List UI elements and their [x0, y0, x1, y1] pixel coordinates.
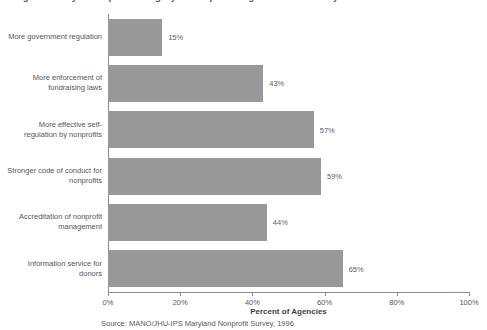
bar-row: 44% [108, 204, 469, 241]
category-label-text: Accreditation of nonprofit management [6, 212, 102, 232]
category-label-text: Stronger code of conduct for nonprofits [6, 166, 102, 186]
bar-more-enforcement-of-fundraising-laws [108, 65, 263, 102]
x-tick-label: 0% [103, 298, 114, 307]
bar-row: 15% [108, 19, 469, 56]
bar-value-label: 15% [168, 33, 183, 42]
category-label-5: Information service for donors [6, 246, 102, 292]
category-label-4: Accreditation of nonprofit management [6, 199, 102, 245]
bar-value-label: 44% [273, 218, 288, 227]
category-label-2: More effective self-regulation by nonpro… [6, 107, 102, 153]
bar-row: 43% [108, 65, 469, 102]
bar-value-label: 59% [327, 172, 342, 181]
x-axis-line [108, 292, 469, 293]
bar-more-effective-self-regulation-by-nonprofits [108, 111, 314, 148]
x-tick-label: 80% [389, 298, 404, 307]
category-label-text: More government regulation [8, 32, 102, 42]
bar-accreditation-of-nonprofit-management [108, 204, 267, 241]
x-axis-title: Percent of Agencies [108, 307, 469, 316]
category-label-text: More effective self-regulation by nonpro… [6, 120, 102, 140]
bar-chart-figure: Figure 4: Ways to Improve Integrity of N… [0, 0, 487, 330]
x-tick-mark [397, 292, 398, 296]
category-label-text: Information service for donors [6, 259, 102, 279]
bar-row: 65% [108, 250, 469, 287]
category-label-0: More government regulation [6, 14, 102, 60]
x-tick-label: 60% [317, 298, 332, 307]
bar-value-label: 57% [320, 125, 335, 134]
bar-row: 57% [108, 111, 469, 148]
source-note: Source: MANO/JHU-IPS Maryland Nonprofit … [101, 319, 294, 328]
x-tick-mark [469, 292, 470, 296]
x-tick-label: 40% [245, 298, 260, 307]
category-label-1: More enforcement of fundraising laws [6, 60, 102, 106]
x-tick-mark [252, 292, 253, 296]
bar-value-label: 65% [349, 264, 364, 273]
category-label-3: Stronger code of conduct for nonprofits [6, 153, 102, 199]
bar-row: 59% [108, 158, 469, 195]
bar-more-government-regulation [108, 19, 162, 56]
x-tick-mark [108, 292, 109, 296]
category-label-text: More enforcement of fundraising laws [6, 73, 102, 93]
x-tick-label: 20% [173, 298, 188, 307]
bar-information-service-for-donors [108, 250, 343, 287]
x-tick-mark [325, 292, 326, 296]
chart-title: Figure 4: Ways to Improve Integrity of N… [14, 0, 474, 2]
x-tick-mark [180, 292, 181, 296]
bar-stronger-code-of-conduct-for-nonprofits [108, 158, 321, 195]
x-tick-label: 100% [459, 298, 478, 307]
bar-value-label: 43% [269, 79, 284, 88]
